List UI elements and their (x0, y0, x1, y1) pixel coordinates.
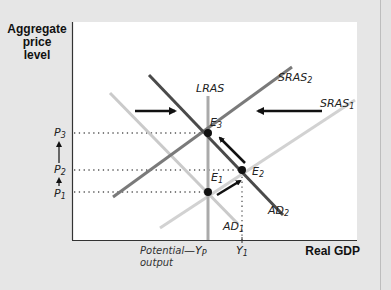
ad2-label: AD2 (268, 205, 289, 218)
potential-output-label: Potential output (140, 245, 184, 269)
yp-label: —YP (184, 245, 207, 258)
y1-label: Y1 (236, 245, 248, 258)
p1-label: P1 (54, 188, 66, 201)
ad1-label: AD1 (223, 221, 244, 234)
p2-label: P2 (54, 164, 66, 177)
e2-point (238, 166, 246, 174)
e3-point (204, 129, 212, 137)
lras-label: LRAS (196, 83, 224, 94)
e1-label: E1 (211, 172, 223, 185)
x-axis-title: Real GDP (300, 245, 360, 258)
e2-label: E2 (252, 166, 264, 179)
ad2-curve (149, 75, 283, 215)
y-axis-title: Aggregate price level (4, 23, 70, 62)
dotted-guides (74, 133, 242, 240)
sras1-label: SRAS1 (320, 98, 354, 111)
e1-point (204, 188, 212, 196)
sras2-label: SRAS2 (278, 72, 312, 85)
e2-to-e3-arrow-icon (220, 138, 245, 163)
e3-label: E3 (210, 117, 222, 130)
ad1-curve (110, 93, 238, 224)
p3-label: P3 (54, 127, 66, 140)
